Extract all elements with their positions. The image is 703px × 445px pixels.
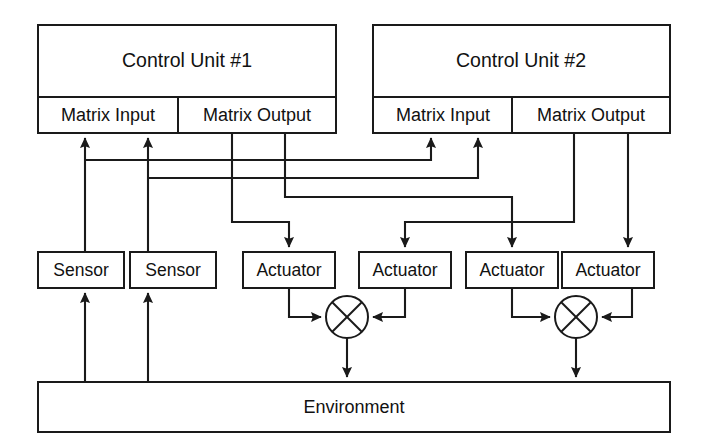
- wire-actuator-2-to-mixer-1: [373, 288, 405, 317]
- control-unit-1-label: Control Unit #1: [122, 49, 252, 71]
- actuator-4[interactable]: Actuator: [562, 252, 654, 288]
- matrix-input-2-label: Matrix Input: [396, 105, 490, 125]
- actuator-2[interactable]: Actuator: [359, 252, 451, 288]
- actuator-1-label: Actuator: [256, 260, 321, 280]
- wire-sensor-1-to-matrix-input-2: [85, 138, 431, 160]
- wire-actuator-3-to-mixer-2: [512, 288, 550, 317]
- block-diagram: Control Unit #1 Matrix Input Matrix Outp…: [0, 0, 703, 445]
- sensor-2-label: Sensor: [145, 260, 201, 280]
- wire-matrix-output-1-to-actuator-1: [232, 133, 289, 247]
- matrix-output-2-label: Matrix Output: [537, 105, 645, 125]
- mixer-2[interactable]: [555, 296, 597, 338]
- environment[interactable]: Environment: [38, 382, 670, 432]
- actuator-2-label: Actuator: [372, 260, 437, 280]
- actuator-3-label: Actuator: [479, 260, 544, 280]
- control-unit-2-label: Control Unit #2: [456, 49, 586, 71]
- control-unit-2[interactable]: Control Unit #2 Matrix Input Matrix Outp…: [373, 25, 670, 133]
- control-unit-1[interactable]: Control Unit #1 Matrix Input Matrix Outp…: [38, 25, 336, 133]
- sensor-1[interactable]: Sensor: [38, 252, 124, 288]
- actuator-1[interactable]: Actuator: [243, 252, 335, 288]
- sensor-1-label: Sensor: [53, 260, 109, 280]
- matrix-input-1-label: Matrix Input: [61, 105, 155, 125]
- diagram-canvas: Control Unit #1 Matrix Input Matrix Outp…: [0, 0, 703, 445]
- wire-actuator-1-to-mixer-1: [289, 288, 321, 317]
- mixer-1[interactable]: [326, 296, 368, 338]
- environment-label: Environment: [303, 397, 404, 417]
- actuator-3[interactable]: Actuator: [466, 252, 558, 288]
- matrix-output-1-label: Matrix Output: [203, 105, 311, 125]
- sensor-2[interactable]: Sensor: [130, 252, 216, 288]
- actuator-4-label: Actuator: [575, 260, 640, 280]
- wire-sensor-2-to-matrix-input-2: [148, 138, 478, 178]
- wire-actuator-4-to-mixer-2: [602, 288, 632, 317]
